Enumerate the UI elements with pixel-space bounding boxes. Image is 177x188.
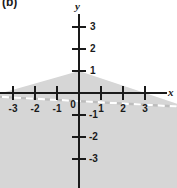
coordinate-plane-figure: (b) y x 0 -3 -2 -1 1 2 3 3 2 1 -1 -2 -3 — [0, 0, 177, 188]
y-tick-label-3: 3 — [90, 22, 100, 32]
x-tick-label-2: 2 — [118, 104, 128, 114]
x-tick-label-neg3: -3 — [4, 104, 22, 114]
y-tick-label-neg3: -3 — [89, 154, 107, 164]
panel-label: (b) — [2, 0, 17, 8]
y-tick-label-neg2: -2 — [89, 132, 107, 142]
shaded-inequality-region — [0, 71, 177, 188]
y-tick-label-2: 2 — [90, 44, 100, 54]
x-axis-label: x — [168, 87, 174, 98]
origin-label: 0 — [68, 100, 78, 110]
y-tick-label-1: 1 — [90, 66, 100, 76]
x-tick-label-3: 3 — [140, 104, 150, 114]
y-axis-label: y — [75, 1, 80, 12]
x-tick-label-neg1: -1 — [48, 104, 66, 114]
y-tick-label-neg1: -1 — [89, 110, 107, 120]
x-tick-label-neg2: -2 — [26, 104, 44, 114]
